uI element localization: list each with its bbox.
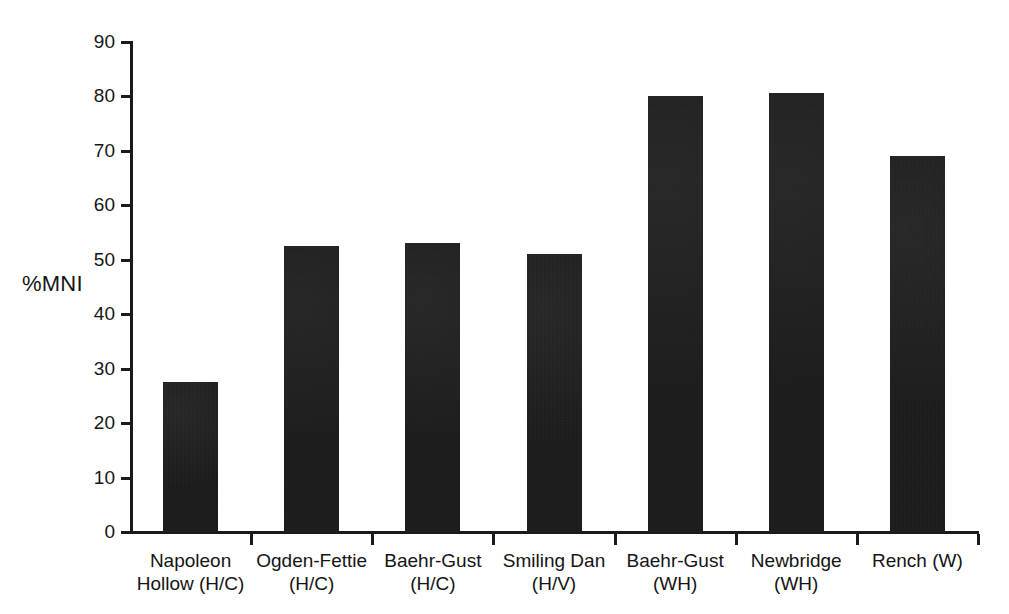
y-axis-tick	[121, 422, 131, 425]
bar	[284, 246, 339, 532]
x-axis-tick	[250, 534, 253, 545]
y-axis-tick	[121, 477, 131, 480]
x-axis-tick	[856, 534, 859, 545]
x-axis-tick	[371, 534, 374, 545]
y-axis-tick	[121, 313, 131, 316]
x-axis-label: Smiling Dan (H/V)	[493, 549, 614, 595]
x-axis-label: Baehr-Gust (H/C)	[372, 549, 493, 595]
y-axis-tick-label: 20	[55, 413, 115, 432]
x-axis-tick	[492, 534, 495, 545]
y-axis-title: %MNI	[22, 271, 83, 297]
y-axis-tick	[121, 259, 131, 262]
x-axis-tick	[614, 534, 617, 545]
y-axis-tick-label: 70	[55, 141, 115, 160]
bar	[163, 382, 218, 532]
x-axis-label: Napoleon Hollow (H/C)	[130, 549, 251, 595]
y-axis-tick-label: 60	[55, 195, 115, 214]
x-axis-label: Baehr-Gust (WH)	[615, 549, 736, 595]
y-axis-tick-label: 10	[55, 468, 115, 487]
bar-chart-figure: %MNI 0102030405060708090 Napoleon Hollow…	[0, 0, 1009, 614]
x-axis-tick	[735, 534, 738, 545]
x-axis-label: Ogden-Fettie (H/C)	[251, 549, 372, 595]
y-axis-tick	[121, 204, 131, 207]
y-axis-line	[130, 41, 133, 534]
y-axis-tick-label: 0	[55, 522, 115, 541]
y-axis-tick	[121, 531, 131, 534]
y-axis-tick	[121, 150, 131, 153]
y-axis-tick-label: 50	[55, 250, 115, 269]
x-axis-label: Newbridge (WH)	[736, 549, 857, 595]
bar	[648, 96, 703, 532]
bar	[405, 243, 460, 532]
bar	[769, 93, 824, 532]
y-axis-tick	[121, 368, 131, 371]
bar	[527, 254, 582, 532]
y-axis-tick	[121, 95, 131, 98]
y-axis-tick-label: 90	[55, 32, 115, 51]
y-axis-tick-label: 40	[55, 304, 115, 323]
x-axis-label: Rench (W)	[857, 549, 978, 572]
bar	[890, 156, 945, 532]
y-axis-tick	[121, 41, 131, 44]
y-axis-tick-label: 80	[55, 86, 115, 105]
x-axis-tick	[977, 534, 980, 545]
y-axis-tick-label: 30	[55, 359, 115, 378]
